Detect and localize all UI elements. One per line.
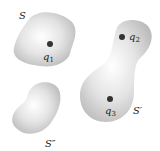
label-surface-s-prime: S′ bbox=[133, 106, 142, 116]
diagram-canvas bbox=[0, 0, 160, 151]
charge-q3-dot bbox=[107, 96, 113, 102]
gaussian-surfaces-diagram: S S′ S″ q1 q2 q3 bbox=[0, 0, 160, 151]
label-charge-q1: q1 bbox=[43, 52, 54, 64]
label-charge-q2: q2 bbox=[129, 32, 140, 44]
label-surface-s: S bbox=[19, 11, 26, 21]
surface-s-double-prime bbox=[12, 82, 60, 134]
q1-subscript: 1 bbox=[49, 56, 53, 64]
q3-subscript: 3 bbox=[111, 110, 115, 118]
charge-q1-dot bbox=[47, 41, 53, 47]
label-surface-s-double-prime: S″ bbox=[45, 139, 56, 149]
q2-subscript: 2 bbox=[135, 36, 139, 44]
label-charge-q3: q3 bbox=[105, 106, 116, 118]
charge-q2-dot bbox=[119, 34, 125, 40]
